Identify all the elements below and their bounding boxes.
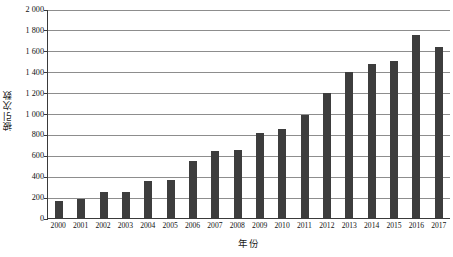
bar-slot <box>249 10 271 218</box>
x-axis-tick-label: 2012 <box>319 221 334 230</box>
bar <box>167 180 175 218</box>
x-axis-tick-label: 2000 <box>51 221 66 230</box>
bar-slot <box>227 10 249 218</box>
x-axis-tick-label: 2001 <box>73 221 88 230</box>
bar <box>435 47 443 218</box>
x-axis-tick-label: 2010 <box>274 221 289 230</box>
y-axis-tick-label: 1 800 <box>26 27 44 35</box>
bar-slot <box>428 10 450 218</box>
y-axis-tick-labels: 02004006008001 0001 2001 4001 6001 8002 … <box>14 0 47 230</box>
bar-slot <box>271 10 293 218</box>
bar-slot <box>361 10 383 218</box>
x-axis-tick-label: 2017 <box>431 221 446 230</box>
plot-area <box>47 10 450 219</box>
x-axis-tick-label: 2002 <box>95 221 110 230</box>
bar-slot <box>48 10 70 218</box>
bar-slot <box>383 10 405 218</box>
bar-slot <box>294 10 316 218</box>
x-axis-tick-label: 2011 <box>297 221 312 230</box>
bar <box>345 72 353 218</box>
bar-slot <box>160 10 182 218</box>
x-axis-tick-label: 2009 <box>252 221 267 230</box>
x-axis-tick-labels: 2000200120022003200420052006200720082009… <box>47 221 450 235</box>
y-axis-tick-label: 1 200 <box>26 89 44 97</box>
bar-slot <box>70 10 92 218</box>
x-axis-title: 年份 <box>47 236 450 250</box>
bars-layer <box>48 10 450 218</box>
x-axis-tick-label: 2015 <box>386 221 401 230</box>
y-axis-tick-label: 1 400 <box>26 69 44 77</box>
bar-slot <box>405 10 427 218</box>
x-axis-tick-label: 2014 <box>364 221 379 230</box>
x-axis-tick-label: 2005 <box>163 221 178 230</box>
bar-slot <box>93 10 115 218</box>
bar <box>412 35 420 218</box>
bar-chart: 被引次数 02004006008001 0001 2001 4001 6001 … <box>0 0 453 257</box>
bar <box>234 150 242 218</box>
bar <box>55 201 63 218</box>
y-axis-tick-label: 2 000 <box>26 6 44 14</box>
bar-slot <box>204 10 226 218</box>
bar <box>122 192 130 218</box>
x-axis-tick-label: 2008 <box>230 221 245 230</box>
x-axis-tick-label: 2004 <box>140 221 155 230</box>
bar <box>390 61 398 218</box>
y-axis-tick-label: 800 <box>32 131 44 139</box>
x-axis-tick-label: 2016 <box>409 221 424 230</box>
y-axis-tick-label: 1 000 <box>26 110 44 118</box>
y-axis-tick-label: 200 <box>32 194 44 202</box>
bar-slot <box>115 10 137 218</box>
bar-slot <box>182 10 204 218</box>
x-axis-tick-label: 2007 <box>207 221 222 230</box>
bar <box>323 93 331 218</box>
bar <box>77 199 85 218</box>
y-axis-tick-label: 1 600 <box>26 48 44 56</box>
x-axis-tick-label: 2006 <box>185 221 200 230</box>
bar <box>256 133 264 218</box>
y-axis-tick-label: 600 <box>32 152 44 160</box>
bar <box>100 192 108 218</box>
bar <box>301 115 309 218</box>
bar-slot <box>137 10 159 218</box>
bar-slot <box>316 10 338 218</box>
y-axis-title-label: 被引次数 <box>1 89 15 131</box>
y-axis-tick-label: 400 <box>32 173 44 181</box>
bar <box>368 64 376 218</box>
x-axis-tick-label: 2003 <box>118 221 133 230</box>
bar <box>144 181 152 218</box>
bar <box>211 151 219 218</box>
x-axis-tick-label: 2013 <box>342 221 357 230</box>
bar <box>278 129 286 218</box>
bar <box>189 161 197 218</box>
y-axis-tick-mark <box>44 219 48 220</box>
bar-slot <box>338 10 360 218</box>
